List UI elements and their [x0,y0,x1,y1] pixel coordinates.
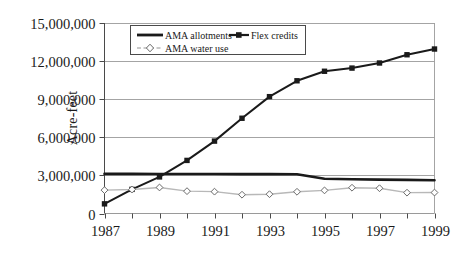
legend-label-ama-water-use: AMA water use [165,43,229,54]
legend-label-ama-allotments: AMA allotments [165,30,232,41]
x-tick-label: 1991 [201,223,230,239]
data-point-marker [404,52,409,57]
y-tick-label: 3,000,000 [38,168,96,184]
legend-label-flex-credits: Flex credits [251,30,298,41]
y-tick-label: 0 [88,207,95,223]
y-tick-label: 15,000,000 [30,16,95,32]
legend-swatch-flex-credits-marker [236,32,242,38]
x-tick-label: 1997 [366,223,395,239]
data-point-marker [294,78,299,83]
data-point-marker [102,201,107,206]
legend: AMA allotments Flex credits AMA water us… [131,26,306,55]
data-point-marker [239,116,244,121]
y-axis-title: Acre-feet [65,91,80,146]
y-tick-label: 12,000,000 [30,54,95,70]
data-point-marker [157,174,162,179]
x-tick-label: 1989 [146,223,175,239]
data-point-marker [322,69,327,74]
data-point-marker [349,65,354,70]
data-point-marker [212,138,217,143]
chart-container: 03,000,0006,000,0009,000,00012,000,00015… [0,0,468,253]
data-point-marker [267,94,272,99]
data-point-marker [377,60,382,65]
x-tick-label: 1999 [421,223,450,239]
data-point-marker [184,158,189,163]
x-tick-label: 1995 [311,223,340,239]
x-tick-label: 1987 [91,223,120,239]
data-point-marker [432,46,437,51]
x-tick-label: 1993 [256,223,285,239]
line-chart: 03,000,0006,000,0009,000,00012,000,00015… [0,0,468,253]
